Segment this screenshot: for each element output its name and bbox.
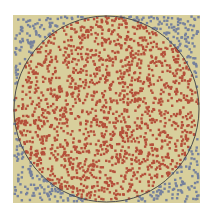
point-inside <box>63 166 65 168</box>
point-inside <box>129 126 131 128</box>
point-inside <box>141 36 143 38</box>
point-inside <box>123 71 125 73</box>
point-outside <box>197 16 199 18</box>
point-inside <box>143 97 145 99</box>
point-inside <box>109 88 111 90</box>
point-inside <box>186 118 188 120</box>
point-inside <box>23 123 25 125</box>
point-outside <box>32 25 34 27</box>
point-inside <box>106 182 108 184</box>
point-inside <box>44 147 46 149</box>
point-inside <box>71 61 73 63</box>
point-inside <box>99 100 101 102</box>
point-inside <box>179 113 181 115</box>
point-inside <box>86 150 88 152</box>
point-inside <box>71 130 73 132</box>
point-outside <box>186 45 188 47</box>
point-inside <box>89 196 91 198</box>
point-inside <box>49 92 51 94</box>
point-outside <box>182 181 184 183</box>
point-inside <box>71 52 73 54</box>
point-inside <box>97 33 99 35</box>
point-inside <box>133 33 135 35</box>
point-outside <box>52 30 54 32</box>
point-inside <box>42 94 44 96</box>
point-outside <box>36 22 38 24</box>
point-inside <box>68 75 70 77</box>
point-inside <box>177 58 179 60</box>
point-outside <box>45 19 47 21</box>
point-inside <box>77 59 79 61</box>
point-inside <box>115 117 117 119</box>
point-inside <box>172 56 174 58</box>
point-inside <box>66 168 68 170</box>
point-inside <box>155 168 157 170</box>
point-inside <box>67 174 69 176</box>
point-inside <box>162 91 164 93</box>
point-inside <box>152 46 154 48</box>
point-inside <box>77 115 79 117</box>
point-outside <box>20 41 22 43</box>
point-outside <box>38 19 40 21</box>
point-inside <box>36 80 38 82</box>
point-inside <box>148 32 150 34</box>
point-inside <box>27 115 29 117</box>
point-inside <box>117 161 119 163</box>
point-inside <box>76 63 78 65</box>
point-inside <box>187 86 189 88</box>
point-inside <box>38 119 40 121</box>
point-inside <box>103 190 105 192</box>
point-inside <box>148 151 150 153</box>
point-inside <box>98 81 100 83</box>
point-inside <box>94 64 96 66</box>
point-outside <box>179 177 181 179</box>
point-inside <box>62 146 64 148</box>
point-outside <box>43 28 45 30</box>
point-outside <box>46 192 48 194</box>
point-inside <box>114 52 116 54</box>
point-inside <box>129 169 131 171</box>
point-inside <box>86 111 88 113</box>
point-inside <box>73 145 75 147</box>
point-inside <box>41 64 43 66</box>
point-outside <box>163 188 165 190</box>
point-inside <box>40 99 42 101</box>
point-outside <box>176 37 178 39</box>
point-inside <box>81 193 83 195</box>
point-inside <box>115 44 117 46</box>
point-outside <box>171 26 173 28</box>
point-inside <box>127 63 129 65</box>
point-inside <box>138 125 140 127</box>
point-outside <box>22 40 24 42</box>
point-outside <box>20 191 22 193</box>
point-inside <box>77 162 79 164</box>
point-outside <box>26 192 28 194</box>
point-inside <box>139 80 141 82</box>
point-inside <box>137 42 139 44</box>
point-inside <box>65 57 67 59</box>
point-inside <box>179 76 181 78</box>
point-inside <box>155 138 157 140</box>
point-inside <box>101 29 103 31</box>
point-inside <box>145 123 147 125</box>
point-inside <box>118 115 120 117</box>
point-inside <box>23 129 25 131</box>
point-inside <box>106 118 108 120</box>
point-outside <box>174 179 176 181</box>
point-inside <box>146 159 148 161</box>
point-inside <box>111 182 113 184</box>
point-inside <box>94 198 96 200</box>
point-inside <box>101 32 103 34</box>
point-outside <box>187 20 189 22</box>
point-inside <box>145 143 147 145</box>
point-inside <box>70 39 72 41</box>
point-outside <box>77 15 79 17</box>
point-inside <box>101 21 103 23</box>
point-inside <box>126 109 128 111</box>
point-inside <box>55 56 57 58</box>
point-inside <box>70 133 72 135</box>
point-inside <box>82 151 84 153</box>
point-inside <box>103 187 105 189</box>
point-inside <box>66 132 68 134</box>
point-inside <box>52 73 54 75</box>
